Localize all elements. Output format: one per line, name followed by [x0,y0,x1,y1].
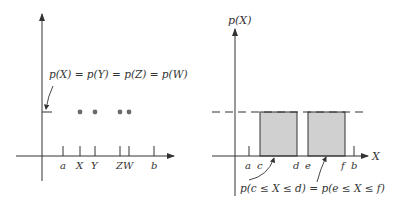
tick-label-d: d [293,160,299,171]
equal-probability-label: p(X) = p(Y) = p(Z) = p(W) [49,68,188,80]
probability-points [78,110,132,115]
left-panel-discrete: a X Y ZW b p(X) = p(Y) = p(Z) = p(W) [16,14,188,181]
tick-label-a: a [245,160,251,171]
tick-label-b: b [151,160,157,171]
shaded-region-e-f [308,112,345,156]
right-panel-continuous: p(X) X a c d e f b p(c ≤ X ≤ d) = p(e ≤ … [212,14,385,196]
tick-label-b: b [351,160,357,171]
equal-area-label: p(c ≤ X ≤ d) = p(e ≤ X ≤ f) [240,182,385,194]
point-X [78,110,83,115]
tick-label-Y: Y [91,160,99,171]
point-W [127,110,132,115]
x-axis-label: X [371,150,381,163]
tick-label-X: X [75,160,84,171]
arrow-to-region-e-f [317,157,326,182]
tick-label-e: e [305,160,311,171]
shaded-region-c-d [260,112,297,156]
tick-label-a: a [60,160,66,171]
tick-label-ZW: ZW [115,160,134,171]
point-Y [93,110,98,115]
point-Z [118,110,123,115]
left-ticks [63,146,154,156]
tick-label-f: f [340,160,347,171]
tick-label-c: c [257,160,263,171]
uniform-distribution-diagram: a X Y ZW b p(X) = p(Y) = p(Z) = p(W) p(X… [0,0,398,209]
y-axis-label: p(X) [228,14,251,27]
annotation-arrow [46,86,53,109]
